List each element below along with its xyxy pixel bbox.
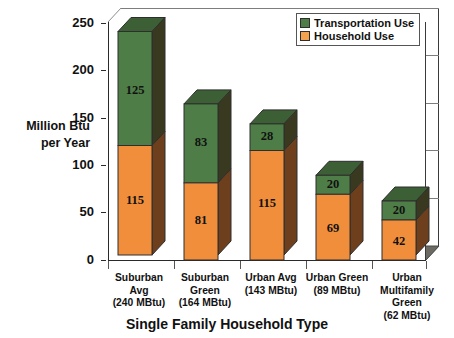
y-tick-label-50: 50 [48,204,94,219]
y-tick-mark-250 [101,23,106,24]
x-category-label-suburban-avg: Suburban Avg (240 MBtu) [105,272,173,310]
y-tick-label-250: 250 [48,15,94,30]
x-cat-3-line-1: (89 MBtu) [303,285,371,298]
x-cat-2-line-1: (143 MBtu) [237,285,305,298]
bar-label-household-3: 69 [316,221,350,236]
legend-label-household-use: Household Use [314,30,394,42]
x-category-label-urban-multifamily-green: Urban Multifamily Green (62 MBtu) [369,272,445,322]
y-axis-line [108,22,109,260]
bar-label-transport-4: 20 [382,203,416,218]
x-cat-2-line-0: Urban Avg [237,272,305,285]
bar-label-household-1: 81 [184,213,218,228]
x-cat-1-line-0: Suburban [171,272,239,285]
legend-item-household-use[interactable]: Household Use [300,29,414,42]
x-tick-4 [372,261,373,269]
bar-label-transport-3: 20 [316,177,350,192]
x-axis-title: Single Family Household Type [0,316,454,332]
x-cat-4-line-1: Multifamily [369,285,445,298]
x-tick-3 [306,261,307,269]
y-tick-label-200: 200 [48,62,94,77]
y-tick-label-100: 100 [48,157,94,172]
y-tick-mark-50 [101,212,106,213]
x-cat-1-line-1: Green [171,285,239,298]
x-tick-2 [240,261,241,269]
y-tick-mark-0 [101,260,106,261]
bar-label-transport-2: 28 [250,129,284,144]
y-tick-label-0: 0 [48,252,94,267]
x-category-label-urban-avg: Urban Avg (143 MBtu) [237,272,305,297]
legend-label-transportation-use: Transportation Use [314,17,414,29]
x-tick-0 [108,261,109,269]
legend-swatch-transportation-icon [300,18,310,28]
x-cat-4-line-2: Green [369,297,445,310]
legend[interactable]: Transportation Use Household Use [296,13,420,46]
bar-label-household-4: 42 [382,234,416,249]
x-cat-3-line-0: Urban Green [303,272,371,285]
x-cat-0-line-1: Avg [105,285,173,298]
x-cat-0-line-0: Suburban [105,272,173,285]
bar-label-transport-0: 125 [118,83,152,98]
x-tick-1 [174,261,175,269]
y-tick-mark-100 [101,165,106,166]
x-category-label-urban-green: Urban Green (89 MBtu) [303,272,371,297]
y-tick-mark-150 [101,118,106,119]
y-axis-title-line2: per Year [2,135,90,152]
chart-container: Million Btu per Year 0 50 100 150 200 25… [0,0,454,338]
legend-swatch-household-icon [300,31,310,41]
bar-label-transport-1: 83 [184,135,218,150]
x-cat-4-line-0: Urban [369,272,445,285]
x-cat-1-line-2: (164 MBtu) [171,297,239,310]
y-tick-label-150: 150 [48,110,94,125]
y-tick-mark-200 [101,70,106,71]
x-tick-5 [426,261,427,269]
bar-label-household-0: 115 [118,193,152,208]
bar-label-household-2: 115 [250,196,284,211]
legend-item-transportation-use[interactable]: Transportation Use [300,16,414,29]
x-cat-0-line-2: (240 MBtu) [105,297,173,310]
x-category-label-suburban-green: Suburban Green (164 MBtu) [171,272,239,310]
